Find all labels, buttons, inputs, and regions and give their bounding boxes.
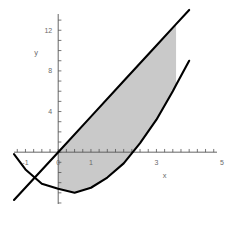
y-tick-label: 8 (48, 67, 52, 74)
x-tick-label: 3 (154, 159, 158, 166)
x-tick-label: 1 (89, 159, 93, 166)
function-plot: -10135 4812 x y (0, 0, 225, 230)
y-axis-label: y (34, 48, 38, 57)
x-tick-label: -1 (22, 159, 28, 166)
x-tick-label: 0 (56, 159, 60, 166)
y-tick-label: 4 (48, 108, 52, 115)
y-tick-label: 12 (44, 27, 52, 34)
plot-area: -10135 4812 x y (0, 0, 225, 230)
x-tick-label: 5 (220, 159, 224, 166)
x-axis-label: x (163, 171, 167, 180)
